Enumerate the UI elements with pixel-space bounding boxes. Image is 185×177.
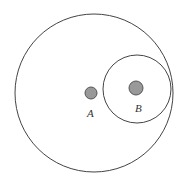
- point-a-dot: [85, 87, 97, 99]
- circles-diagram: A B: [0, 0, 185, 177]
- point-b-dot: [129, 81, 143, 95]
- point-a-label: A: [86, 107, 94, 119]
- point-b-label: B: [135, 102, 142, 114]
